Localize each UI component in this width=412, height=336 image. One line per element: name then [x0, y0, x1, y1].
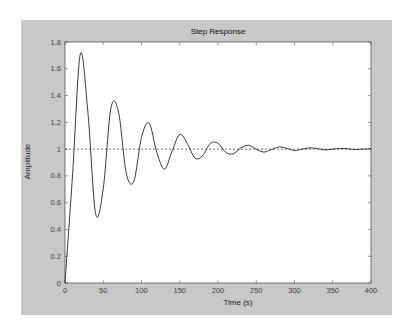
x-tick-label: 50	[99, 286, 107, 295]
x-tick-label: 400	[365, 286, 378, 295]
y-tick-label: 0.4	[51, 225, 61, 234]
y-tick-label: 0.6	[51, 198, 61, 207]
x-tick-label: 300	[288, 286, 301, 295]
y-tick-label: 1.6	[51, 64, 61, 73]
y-tick-label: 1	[57, 145, 61, 154]
y-tick-label: 0	[57, 279, 61, 288]
x-tick-label: 150	[173, 286, 186, 295]
x-tick-label: 100	[135, 286, 148, 295]
y-tick-label: 1.4	[51, 91, 61, 100]
y-tick-label: 1.2	[51, 118, 61, 127]
y-tick-label: 0.2	[51, 252, 61, 261]
x-tick-label: 200	[212, 286, 225, 295]
y-tick-label: 0.8	[51, 171, 61, 180]
x-tick-label: 350	[326, 286, 339, 295]
axes-box	[65, 42, 371, 283]
x-tick-label: 0	[63, 286, 67, 295]
x-tick-label: 250	[250, 286, 263, 295]
y-tick-label: 1.8	[51, 38, 61, 47]
plot-area: 05010015020025030035040000.20.40.60.811.…	[0, 0, 412, 336]
